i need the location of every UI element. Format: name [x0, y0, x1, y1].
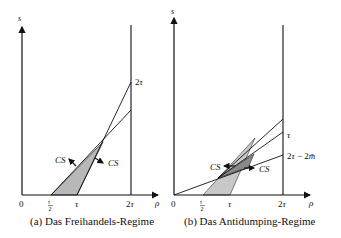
x-axis-label: ρ: [308, 198, 314, 208]
tick-2tau: 2τ: [126, 199, 135, 209]
origin-label: 0: [19, 199, 24, 209]
panel-a: s ρ 0 τ 2 τ 2τ 2τ CS CS (a) Das Freihand…: [18, 14, 160, 228]
tick-tau-half-denominator: 2: [201, 206, 204, 212]
cs-label-left: CS: [210, 162, 221, 172]
right-label-tau: τ: [287, 130, 291, 140]
tick-tau-half: τ: [48, 199, 51, 205]
caption-a: (a) Das Freihandels-Regime: [30, 215, 154, 228]
cs-label-right: CS: [259, 164, 270, 174]
figure: s ρ 0 τ 2 τ 2τ 2τ CS CS (a) Das Freihand…: [0, 0, 341, 238]
tick-tau: τ: [75, 199, 79, 209]
cs-label-right: CS: [108, 158, 119, 168]
tick-2tau: 2τ: [278, 199, 287, 209]
line-to-tau: [218, 132, 283, 178]
cs-arrow-left: [69, 159, 76, 166]
tick-tau: τ: [228, 199, 232, 209]
panel-b: s ρ 0 τ 2 τ 2τ τ 2τ − 2m̄ CS CS (b) Das …: [171, 7, 316, 228]
caption-b: (b) Das Antidumping-Regime: [184, 215, 315, 228]
tick-tau-half-denominator: 2: [49, 206, 52, 212]
tick-tau-half: τ: [200, 199, 203, 205]
cs-arrow-right: [95, 158, 103, 163]
y-axis-label: s: [171, 7, 174, 16]
line-to-top: [218, 119, 283, 178]
y-axis-label: s: [18, 14, 21, 23]
cs-label-left: CS: [55, 155, 66, 165]
flat-line: [51, 110, 131, 195]
origin-label: 0: [171, 199, 176, 209]
right-label-2tau-minus-2m: 2τ − 2m̄: [287, 151, 316, 161]
right-label-2tau: 2τ: [135, 77, 144, 87]
x-axis-label: ρ: [154, 198, 160, 208]
